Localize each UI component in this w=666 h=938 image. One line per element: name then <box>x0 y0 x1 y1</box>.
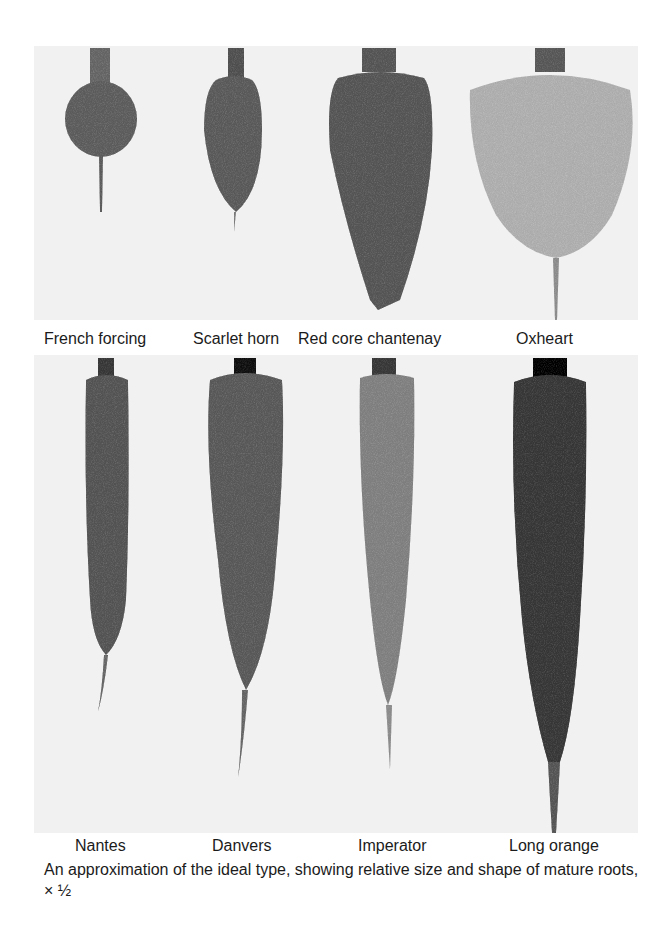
label-imperator: Imperator <box>358 837 426 855</box>
french-forcing-root-image <box>65 48 137 212</box>
label-nantes: Nantes <box>75 837 126 855</box>
scarlet-horn-root-image <box>204 48 262 232</box>
oxheart-root-image <box>470 48 633 320</box>
carrot-photographs <box>0 0 666 938</box>
label-french-forcing: French forcing <box>44 330 146 348</box>
red-core-chantenay-root-image <box>329 48 432 310</box>
label-danvers: Danvers <box>212 837 272 855</box>
label-red-core-chantenay: Red core chantenay <box>298 330 441 348</box>
label-oxheart: Oxheart <box>516 330 573 348</box>
nantes-root-image <box>86 358 129 712</box>
label-scarlet-horn: Scarlet horn <box>193 330 279 348</box>
long-orange-root-image <box>513 358 586 833</box>
label-long-orange: Long orange <box>509 837 599 855</box>
danvers-root-image <box>208 358 283 778</box>
imperator-root-image <box>360 358 415 770</box>
figure-caption: An approximation of the ideal type, show… <box>44 859 644 901</box>
